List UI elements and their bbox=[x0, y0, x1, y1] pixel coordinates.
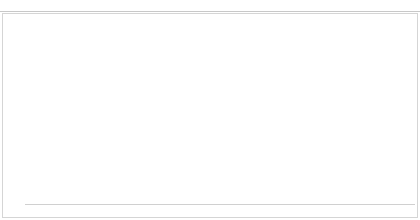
legend-item-above-50k[interactable] bbox=[22, 19, 28, 23]
marimekko-chart-screen bbox=[0, 0, 420, 220]
x-axis bbox=[25, 204, 415, 220]
title-divider bbox=[0, 11, 420, 12]
legend-swatch-below-50k bbox=[11, 19, 15, 23]
chart-card bbox=[2, 13, 418, 218]
window-title-bar bbox=[0, 0, 420, 12]
legend-item-below-50k[interactable] bbox=[11, 19, 17, 23]
legend bbox=[6, 16, 28, 26]
plot-area bbox=[3, 26, 417, 217]
legend-swatch-above-50k bbox=[22, 19, 26, 23]
bars-container bbox=[25, 26, 415, 204]
y-axis bbox=[3, 26, 25, 204]
